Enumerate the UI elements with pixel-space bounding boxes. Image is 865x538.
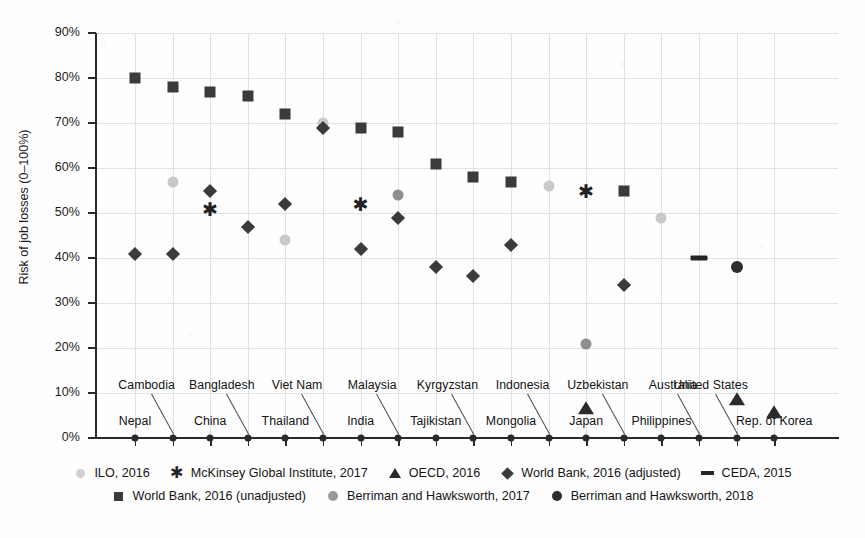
data-point-triangle — [766, 405, 782, 418]
x-axis-category-label: India — [347, 414, 374, 428]
data-point-square — [430, 158, 441, 169]
gridline-horizontal — [96, 303, 838, 304]
legend-row-1: ILO, 2016✱McKinsey Global Institute, 201… — [0, 466, 865, 480]
legend-item[interactable]: World Bank, 2016 (unadjusted) — [112, 489, 306, 503]
x-axis-category-label: Viet Nam — [272, 378, 323, 392]
data-point-square — [618, 185, 629, 196]
y-axis-tick — [88, 212, 96, 214]
y-axis-tick-label: 50% — [34, 205, 80, 219]
legend-item-label: Berriman and Hawksworth, 2018 — [571, 489, 754, 503]
data-point-circle-dark — [731, 261, 743, 273]
gridline-horizontal — [96, 123, 838, 124]
data-point-square — [506, 176, 517, 187]
gridline-horizontal — [96, 78, 838, 79]
y-axis-tick-label: 80% — [34, 70, 80, 84]
x-axis-category-label: Cambodia — [118, 378, 174, 392]
y-axis-tick-label: 60% — [34, 160, 80, 174]
gridline-horizontal — [96, 33, 838, 34]
y-axis-tick — [88, 32, 96, 34]
y-axis-tick-label: 10% — [34, 385, 80, 399]
gridline-horizontal — [96, 168, 838, 169]
gridline-vertical — [398, 33, 399, 438]
gridline-vertical — [774, 33, 775, 438]
data-point-square — [280, 109, 291, 120]
data-point-asterisk: ✱ — [353, 199, 369, 210]
data-point-circle-light — [167, 176, 178, 187]
x-axis-anchor-dot — [432, 434, 439, 441]
legend-item[interactable]: CEDA, 2015 — [701, 466, 792, 480]
x-axis-anchor-dot — [169, 434, 176, 441]
data-point-circle-light — [280, 235, 291, 246]
data-point-triangle — [729, 392, 745, 405]
legend-marker-circle-light-icon — [73, 466, 87, 480]
x-axis-category-label: United States — [673, 378, 747, 392]
legend-item-label: ILO, 2016 — [94, 466, 149, 480]
x-axis-category-label: Tajikistan — [410, 414, 461, 428]
x-axis-anchor-dot — [282, 434, 289, 441]
data-point-circle-light — [543, 181, 554, 192]
legend-marker-dash-icon — [701, 466, 715, 480]
legend-marker-circle-dark-icon — [550, 489, 564, 503]
legend-item[interactable]: Berriman and Hawksworth, 2018 — [550, 489, 754, 503]
x-axis-anchor-dot — [508, 434, 515, 441]
y-axis-line — [95, 33, 97, 439]
x-axis-category-label: Kyrgyzstan — [417, 378, 478, 392]
y-axis-tick-label: 90% — [34, 25, 80, 39]
data-point-square — [355, 122, 366, 133]
y-axis-tick — [88, 257, 96, 259]
x-axis-category-label: Indonesia — [496, 378, 550, 392]
x-axis-anchor-dot — [357, 434, 364, 441]
y-axis-title: Risk of job losses (0–100%) — [17, 17, 31, 397]
x-axis-category-label: Bangladesh — [189, 378, 254, 392]
y-axis-tick — [88, 122, 96, 124]
risk-of-job-losses-chart: Risk of job losses (0–100%) 90%80%70%60%… — [0, 0, 865, 538]
y-axis-tick — [88, 167, 96, 169]
data-point-triangle — [578, 401, 594, 414]
data-point-dash — [691, 256, 708, 261]
x-axis-category-label: Uzbekistan — [567, 378, 628, 392]
legend-item-label: CEDA, 2015 — [722, 466, 792, 480]
gridline-vertical — [323, 33, 324, 438]
legend-item[interactable]: OECD, 2016 — [388, 466, 480, 480]
legend-marker-asterisk-icon: ✱ — [170, 466, 184, 480]
legend-item[interactable]: ✱McKinsey Global Institute, 2017 — [170, 466, 368, 480]
x-axis-category-label: Japan — [569, 414, 603, 428]
x-axis-anchor-dot — [395, 434, 402, 441]
gridline-horizontal — [96, 258, 838, 259]
data-point-asterisk: ✱ — [202, 203, 218, 214]
y-axis-tick — [88, 347, 96, 349]
legend-item[interactable]: ILO, 2016 — [73, 466, 149, 480]
data-point-square — [130, 73, 141, 84]
y-axis-tick-label: 20% — [34, 340, 80, 354]
y-axis-tick — [88, 392, 96, 394]
x-axis-anchor-dot — [583, 434, 590, 441]
data-point-asterisk: ✱ — [578, 185, 594, 196]
x-axis-anchor-dot — [244, 434, 251, 441]
data-point-circle-mid — [393, 190, 404, 201]
x-axis-anchor-dot — [696, 434, 703, 441]
y-axis-tick-label: 70% — [34, 115, 80, 129]
legend-marker-circle-mid-icon — [326, 489, 340, 503]
y-axis-tick — [88, 302, 96, 304]
x-axis-anchor-dot — [771, 434, 778, 441]
legend-item[interactable]: World Bank, 2016 (adjusted) — [500, 466, 680, 480]
x-axis-anchor-dot — [320, 434, 327, 441]
data-point-circle-light — [656, 212, 667, 223]
legend-marker-square-icon — [112, 489, 126, 503]
gridline-horizontal — [96, 348, 838, 349]
legend-item-label: Berriman and Hawksworth, 2017 — [347, 489, 530, 503]
legend-item[interactable]: Berriman and Hawksworth, 2017 — [326, 489, 530, 503]
x-axis-anchor-dot — [470, 434, 477, 441]
x-axis-anchor-dot — [207, 434, 214, 441]
legend-item-label: OECD, 2016 — [409, 466, 480, 480]
y-axis-tick-label: 30% — [34, 295, 80, 309]
x-axis-category-label: Philippines — [631, 414, 691, 428]
legend-row-2: World Bank, 2016 (unadjusted)Berriman an… — [0, 489, 865, 503]
gridline-horizontal — [96, 393, 838, 394]
y-axis-tick — [88, 437, 96, 439]
y-axis-tick-label: 40% — [34, 250, 80, 264]
x-axis-category-label: China — [194, 414, 226, 428]
y-axis-tick — [88, 77, 96, 79]
legend-marker-triangle-icon — [388, 466, 402, 480]
data-point-circle-mid — [581, 338, 592, 349]
